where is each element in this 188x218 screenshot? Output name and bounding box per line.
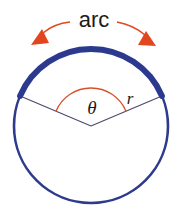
diagram-canvas: arc θ r: [0, 0, 188, 218]
arc-diagram-figure: arc θ r: [0, 0, 188, 218]
highlighted-arc: [20, 49, 162, 96]
leader-line-right: [117, 22, 145, 35]
arrow-right-icon: [138, 31, 156, 46]
radius-label: r: [127, 89, 134, 108]
arc-label: arc: [79, 7, 110, 32]
leader-line-left: [43, 22, 70, 33]
theta-label: θ: [87, 97, 96, 118]
arrow-left-icon: [31, 29, 49, 45]
